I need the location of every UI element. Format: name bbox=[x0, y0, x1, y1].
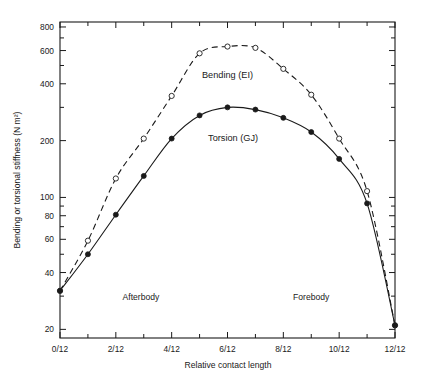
y-tick-label: 80 bbox=[45, 211, 55, 221]
y-tick-label: 200 bbox=[40, 136, 54, 146]
series-label-2: Torsion (GJ) bbox=[208, 133, 258, 143]
data-point bbox=[253, 45, 258, 50]
y-tick-label: 20 bbox=[45, 324, 55, 334]
x-tick-label: 12/12 bbox=[385, 344, 406, 354]
x-tick-label: 10/12 bbox=[329, 344, 350, 354]
series-label-1: Bending (EI) bbox=[202, 70, 253, 80]
y-tick-label: 600 bbox=[40, 46, 54, 56]
x-tick-label: 8/12 bbox=[275, 344, 292, 354]
data-point bbox=[281, 115, 286, 120]
data-point bbox=[309, 92, 314, 97]
data-point bbox=[85, 252, 90, 257]
data-point bbox=[169, 136, 174, 141]
x-tick-label: 4/12 bbox=[164, 344, 181, 354]
y-tick-label: 400 bbox=[40, 79, 54, 89]
data-point bbox=[337, 156, 342, 161]
x-tick-label: 6/12 bbox=[219, 344, 236, 354]
stiffness-vs-contact-length-chart: 20406080100200400600800 0/122/124/126/12… bbox=[0, 0, 436, 390]
y-tick-label: 40 bbox=[45, 268, 55, 278]
data-point bbox=[113, 212, 118, 217]
chart-figure: 20406080100200400600800 0/122/124/126/12… bbox=[0, 0, 436, 390]
data-point bbox=[58, 288, 63, 293]
data-point bbox=[253, 107, 258, 112]
data-point bbox=[309, 130, 314, 135]
data-point bbox=[393, 323, 398, 328]
x-tick-label: 0/12 bbox=[52, 344, 69, 354]
region-label-forebody: Forebody bbox=[293, 292, 330, 302]
data-point bbox=[225, 44, 230, 49]
y-tick-label: 60 bbox=[45, 234, 55, 244]
data-point bbox=[364, 189, 369, 194]
data-point bbox=[197, 51, 202, 56]
data-point bbox=[365, 201, 370, 206]
data-point bbox=[85, 238, 90, 243]
data-point bbox=[141, 173, 146, 178]
y-tick-label: 100 bbox=[40, 192, 54, 202]
y-tick-label: 800 bbox=[40, 22, 54, 32]
x-axis-title: Relative contact length bbox=[185, 360, 272, 370]
data-point bbox=[113, 176, 118, 181]
data-point bbox=[281, 66, 286, 71]
data-point bbox=[169, 93, 174, 98]
data-point bbox=[337, 136, 342, 141]
region-label-afterbody: Afterbody bbox=[123, 292, 160, 302]
y-axis-title: Bending or torsional stiffness (N m²) bbox=[12, 111, 22, 248]
x-tick-label: 2/12 bbox=[108, 344, 125, 354]
data-point bbox=[225, 105, 230, 110]
data-point bbox=[141, 136, 146, 141]
data-point bbox=[197, 113, 202, 118]
chart-background bbox=[0, 0, 436, 390]
